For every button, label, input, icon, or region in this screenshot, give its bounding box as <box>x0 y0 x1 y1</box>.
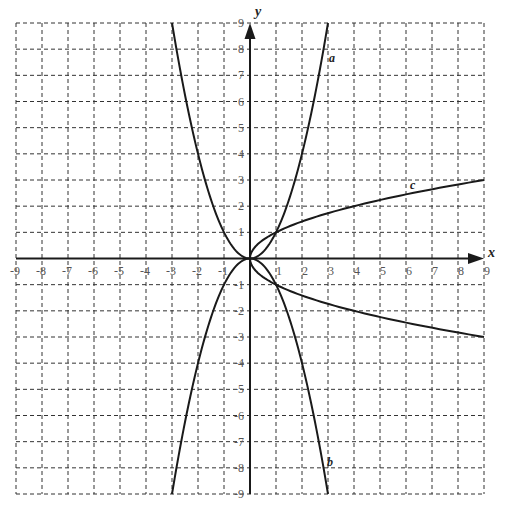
x-tick-label: 1 <box>276 264 282 278</box>
x-axis-label: x <box>487 245 495 260</box>
x-tick-label: 7 <box>432 264 438 278</box>
x-tick-label: 8 <box>458 264 464 278</box>
x-tick-label: -3 <box>166 264 176 278</box>
y-tick-label: -9 <box>234 487 244 501</box>
x-tick-label: -7 <box>62 264 72 278</box>
axes: x y <box>16 4 495 494</box>
y-tick-label: 4 <box>238 147 244 161</box>
y-tick-label: -3 <box>234 330 244 344</box>
y-tick-label: -6 <box>234 409 244 423</box>
curve-label-b: b <box>327 455 333 469</box>
y-tick-label: -7 <box>234 435 244 449</box>
x-tick-label: 2 <box>302 264 308 278</box>
coordinate-plane: -9-8-7-6-5-4-3-2-1123456789987654321-1-2… <box>0 0 506 507</box>
y-tick-label: 5 <box>238 121 244 135</box>
x-tick-label: -2 <box>192 264 202 278</box>
y-tick-label: 6 <box>238 95 244 109</box>
y-axis-label: y <box>253 4 262 19</box>
x-tick-label: -5 <box>114 264 124 278</box>
x-tick-label: 3 <box>328 264 334 278</box>
x-tick-label: -9 <box>10 264 20 278</box>
x-tick-label: 5 <box>380 264 386 278</box>
y-tick-label: 1 <box>238 225 244 239</box>
x-tick-label: -1 <box>218 264 228 278</box>
x-tick-label: 6 <box>406 264 412 278</box>
y-tick-label: 9 <box>238 16 244 30</box>
curve-label-a: a <box>329 51 335 65</box>
y-tick-label: 8 <box>238 42 244 56</box>
x-tick-label: 9 <box>484 264 490 278</box>
y-tick-label: -5 <box>234 382 244 396</box>
y-tick-label: 7 <box>238 68 244 82</box>
curve-label-c: c <box>410 178 416 192</box>
x-tick-label: -4 <box>140 264 150 278</box>
y-tick-label: -2 <box>234 304 244 318</box>
y-tick-label: -4 <box>234 356 244 370</box>
x-tick-label: 4 <box>354 264 360 278</box>
curve-labels: a b c <box>327 51 416 469</box>
y-tick-label: -1 <box>234 278 244 292</box>
y-axis-arrow-icon <box>245 23 256 39</box>
x-tick-label: -8 <box>36 264 46 278</box>
x-axis-arrow-icon <box>468 253 484 264</box>
y-tick-label: 3 <box>238 173 244 187</box>
y-tick-label: -8 <box>234 461 244 475</box>
y-tick-label: 2 <box>238 199 244 213</box>
x-tick-label: -6 <box>88 264 98 278</box>
